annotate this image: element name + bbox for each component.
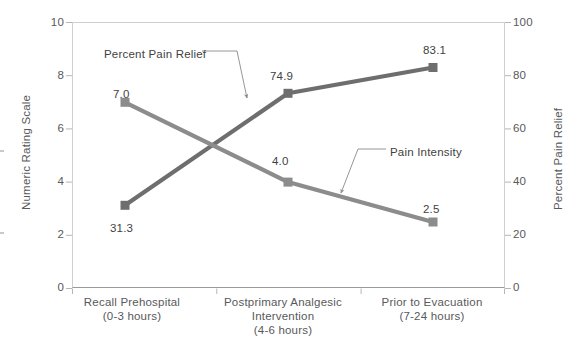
marker-pain-intensity-2: [429, 218, 438, 227]
marker-pain-intensity-0: [121, 98, 130, 107]
y-axis-ticks: [66, 23, 72, 289]
x-axis-ticks: [73, 289, 505, 295]
series-percent-pain-relief: [121, 63, 438, 210]
leader-line-percent-pain-relief: [202, 51, 247, 98]
marker-percent-pain-relief-0: [121, 201, 130, 210]
chart-container: 10 8 6 4 2 0 100 80 60 40 20 0 Numeric R…: [0, 0, 564, 346]
series-pain-intensity: [121, 98, 438, 227]
marker-percent-pain-relief-2: [429, 63, 438, 72]
leader-line-pain-intensity: [341, 149, 386, 193]
y2-axis-ticks: [505, 23, 511, 289]
marker-percent-pain-relief-1: [284, 89, 293, 98]
marker-pain-intensity-1: [284, 178, 293, 187]
chart-svg-overlay: [0, 0, 564, 346]
